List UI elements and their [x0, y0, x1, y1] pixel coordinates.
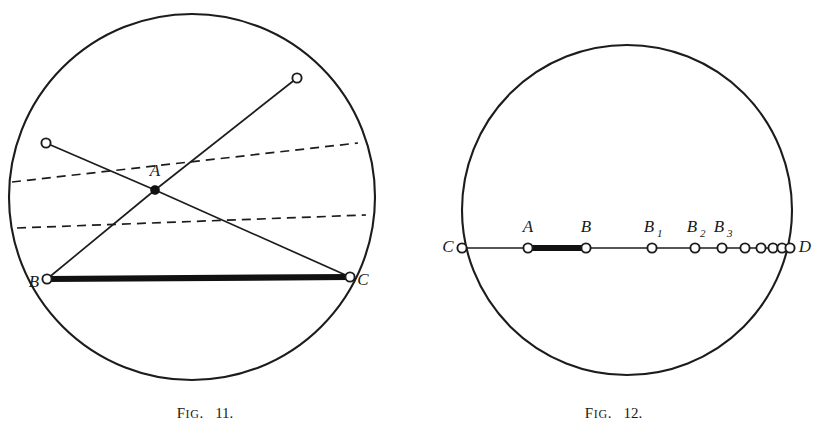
fig-11-point-C [345, 272, 354, 281]
fig-11-label-A: A [149, 161, 161, 180]
fig-11-label-B: B [29, 272, 40, 291]
fig-11-point-UL [41, 138, 50, 147]
fig-11-point-UR [292, 73, 301, 82]
figure-12-diagram: CABB1B2B3D [410, 0, 817, 400]
fig-12-label-B3-subscript: 3 [726, 227, 733, 239]
fig-11-chord-A-B [47, 190, 155, 279]
fig-12-point-B4 [740, 243, 749, 252]
fig-11-circle-outline [9, 14, 375, 380]
fig-12-point-B1 [647, 243, 656, 252]
fig-12-point-B3 [717, 243, 726, 252]
fig-12-label-B2-subscript: 2 [700, 227, 706, 239]
fig-12-point-C [457, 243, 466, 252]
fig-12-point-D [785, 243, 794, 252]
fig-12-circle-outline [462, 45, 792, 375]
fig-12-point-B6 [768, 243, 777, 252]
figure-12-caption-ig: IG [594, 407, 608, 421]
fig-12-label-B1-subscript: 1 [657, 227, 663, 239]
fig-12-point-B2 [690, 243, 699, 252]
figure-11-caption: FIG. 11. [0, 404, 410, 422]
fig-11-chord-A-UL [46, 143, 155, 190]
figure-11-diagram: ABC [0, 0, 410, 400]
figure-12-caption: FIG. 12. [410, 404, 817, 422]
figure-11-caption-f: F [177, 405, 186, 421]
fig-11-dashed-chord-1 [12, 143, 358, 182]
fig-11-point-A [151, 186, 159, 194]
figure-12-caption-number: 12. [623, 405, 642, 421]
fig-11-dashed-chord-2 [17, 215, 366, 228]
figure-11-caption-ig: IG [186, 407, 200, 421]
fig-12-label-B2: B [687, 217, 698, 236]
figure-page: ABC FIG. 11. CABB1B2B3D FIG. 12. [0, 0, 817, 448]
fig-12-point-B [581, 243, 590, 252]
fig-11-bold-segment-B-C [47, 277, 350, 279]
fig-12-label-D: D [798, 237, 812, 256]
fig-12-label-B3: B [714, 217, 725, 236]
fig-11-label-C: C [357, 270, 369, 289]
figure-11-caption-text: FIG. [177, 405, 209, 421]
fig-11-point-B [42, 274, 51, 283]
fig-12-point-A [523, 243, 532, 252]
fig-12-label-C: C [442, 237, 454, 256]
figure-11-caption-dot: . [199, 405, 203, 421]
fig-11-chord-A-C [155, 190, 350, 277]
figure-12-caption-dot: . [608, 405, 612, 421]
figure-11-caption-number: 11. [215, 405, 233, 421]
figure-12-caption-text: FIG. [585, 405, 617, 421]
figure-12-caption-f: F [585, 405, 594, 421]
fig-12-label-A: A [522, 217, 534, 236]
fig-12-label-B: B [581, 217, 592, 236]
fig-11-chord-A-UR [155, 78, 297, 190]
fig-12-point-B5 [756, 243, 765, 252]
fig-12-label-B1: B [644, 217, 655, 236]
